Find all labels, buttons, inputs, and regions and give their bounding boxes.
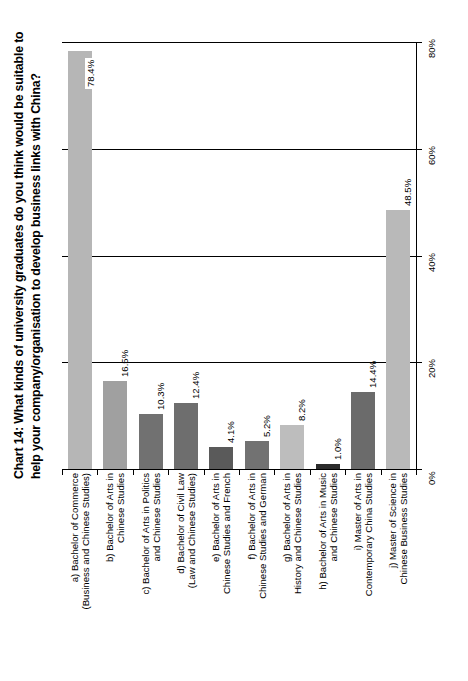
category-label-line-1: c) Bachelor of Arts in Politics [140,473,151,663]
category-tick-6 [274,469,275,475]
category-label-3: c) Bachelor of Arts in Politicsand Chine… [140,473,162,663]
bar-value-label-5: 4.1% [226,421,236,443]
category-tick-5 [239,469,240,475]
category-label-line-1: d) Bachelor of Civil Law [175,473,186,663]
bar-value-label-2: 16.5% [120,350,130,377]
value-tick-label-40: 40% [427,228,437,272]
category-label-7: g) Bachelor of Arts inHistory and Chines… [281,473,303,663]
category-label-9: i) Master of Arts inContemporary China S… [352,473,374,663]
gridline-60 [62,149,416,150]
category-label-line-1: a) Bachelor of Commerce [69,473,80,663]
category-label-line-1: i) Master of Arts in [352,473,363,663]
value-tick-label-60: 60% [427,121,437,165]
chart-title-line-1: Chart 14: What kinds of university gradu… [11,32,28,479]
bar-6 [245,441,269,469]
category-label-5: e) Bachelor of Arts inChinese Studies an… [210,473,232,663]
category-label-line-1: e) Bachelor of Arts in [210,473,221,663]
category-label-line-1: h) Bachelor of Arts in Music [317,473,328,663]
category-label-line-2: Contemporary China Studies [363,473,374,663]
value-tick-label-20: 20% [427,334,437,378]
category-tick-1 [97,469,98,475]
value-tick-80 [416,42,422,43]
category-label-10: j) Master of Science inChinese Business … [387,473,409,663]
category-label-line-1: b) Bachelor of Arts in [104,473,115,663]
category-tick-4 [204,469,205,475]
value-tick-40 [416,256,422,257]
category-label-line-2: Chinese Business Studies [399,473,410,663]
bar-value-label-6: 5.2% [262,415,272,437]
category-label-1: a) Bachelor of Commerce(Business and Chi… [69,473,91,663]
value-tick-20 [416,362,422,363]
category-tick-3 [168,469,169,475]
category-label-line-2: Chinese Studies [115,473,126,663]
bar-value-label-7: 8.2% [297,399,307,421]
value-tick-label-0: 0% [427,441,437,485]
bar-3 [139,414,163,469]
value-tick-60 [416,149,422,150]
category-tick-10 [416,469,417,475]
bar-value-label-3: 10.3% [156,383,166,410]
category-tick-7 [310,469,311,475]
bar-1 [68,51,92,469]
chart-title: Chart 14: What kinds of university gradu… [3,39,53,479]
category-label-8: h) Bachelor of Arts in Musicand Chinese … [317,473,339,663]
category-tick-0 [62,469,63,475]
category-label-line-2: Chinese Studies and German [257,473,268,663]
category-label-line-2: and Chinese Studies [151,473,162,663]
category-label-line-2: Chinese Studies and French [222,473,233,663]
bar-7 [280,425,304,469]
bar-value-label-1: 78.4% [85,57,97,88]
gridline-80 [62,42,416,43]
category-tick-9 [381,469,382,475]
bar-value-label-8: 1.0% [333,438,343,460]
category-tick-2 [133,469,134,475]
category-label-2: b) Bachelor of Arts inChinese Studies [104,473,126,663]
bar-9 [351,392,375,469]
category-label-line-2: and Chinese Studies [328,473,339,663]
chart-figure: Chart 14: What kinds of university gradu… [0,0,468,681]
bar-5 [209,447,233,469]
category-label-line-1: f) Bachelor of Arts in [246,473,257,663]
category-label-line-2: History and Chinese Studies [292,473,303,663]
gridline-20 [62,362,416,363]
category-label-4: d) Bachelor of Civil Law(Law and Chinese… [175,473,197,663]
chart-title-line-2: help your company/organisation to develo… [28,73,45,479]
bar-10 [386,210,410,469]
category-label-line-1: g) Bachelor of Arts in [281,473,292,663]
plot-area: 78.4%16.5%10.3%12.4%4.1%5.2%8.2%1.0%14.4… [62,42,416,469]
value-tick-label-80: 80% [427,14,437,58]
category-label-6: f) Bachelor of Arts inChinese Studies an… [246,473,268,663]
gridline-40 [62,256,416,257]
bar-value-label-10: 48.5% [403,179,413,206]
category-tick-8 [345,469,346,475]
bar-value-label-9: 14.4% [368,361,378,388]
category-label-line-2: (Business and Chinese Studies) [80,473,91,663]
bar-2 [103,381,127,469]
bar-value-label-4: 12.4% [191,372,201,399]
category-label-line-1: j) Master of Science in [387,473,398,663]
category-label-line-2: (Law and Chinese Studies) [186,473,197,663]
bar-4 [174,403,198,469]
